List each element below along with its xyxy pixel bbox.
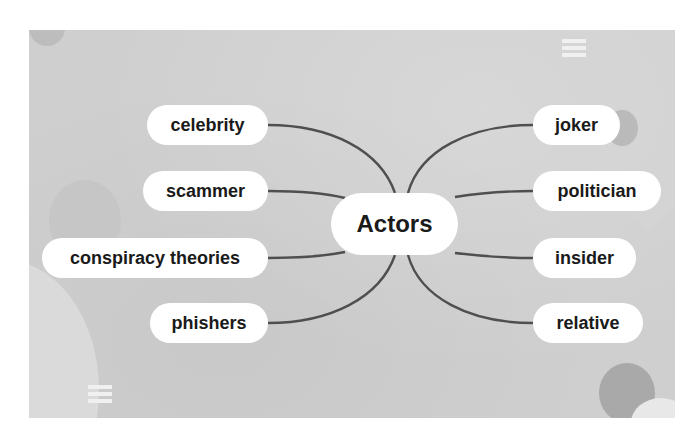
node-conspiracy-theories[interactable]: conspiracy theories: [42, 238, 268, 278]
edge-celebrity: [268, 125, 395, 193]
edge-insider: [455, 253, 533, 258]
center-node-label: Actors: [356, 210, 432, 238]
node-relative[interactable]: relative: [533, 303, 643, 343]
node-label: insider: [555, 248, 614, 269]
edge-relative: [408, 255, 533, 323]
center-node[interactable]: Actors: [331, 193, 458, 255]
node-insider[interactable]: insider: [533, 238, 636, 278]
node-politician[interactable]: politician: [533, 171, 661, 211]
node-label: relative: [556, 313, 619, 334]
node-label: joker: [555, 115, 598, 136]
edge-joker: [408, 125, 533, 193]
node-scammer[interactable]: scammer: [143, 171, 268, 211]
edge-phishers: [268, 255, 395, 323]
node-label: conspiracy theories: [70, 248, 240, 269]
node-joker[interactable]: joker: [533, 105, 620, 145]
edge-scammer: [268, 191, 345, 198]
node-label: phishers: [171, 313, 246, 334]
node-phishers[interactable]: phishers: [150, 303, 268, 343]
edge-politician: [455, 191, 533, 197]
node-celebrity[interactable]: celebrity: [147, 105, 268, 145]
node-label: scammer: [166, 181, 245, 202]
node-label: politician: [557, 181, 636, 202]
node-label: celebrity: [170, 115, 244, 136]
edge-conspiracy-theories: [268, 252, 345, 258]
